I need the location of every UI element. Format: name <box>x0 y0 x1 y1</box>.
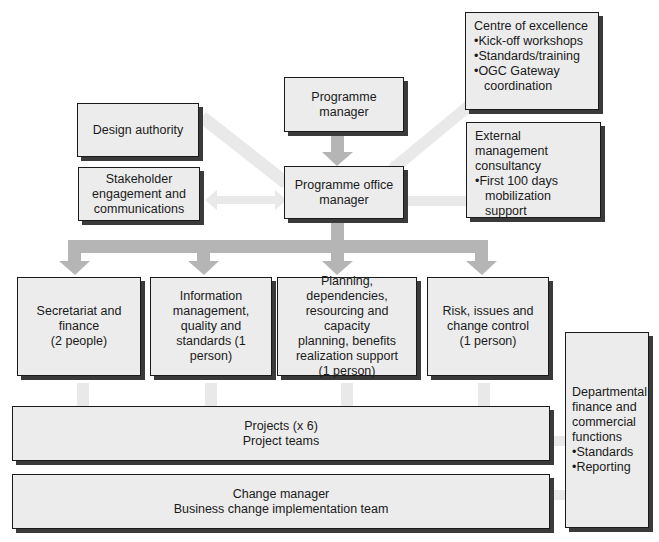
design-authority-label: Design authority <box>93 123 183 138</box>
departmental-bullets: Standards Reporting <box>572 445 647 475</box>
centre-of-excellence-title: Centre of excellence <box>474 19 590 34</box>
change-manager-box: Change manager Business change implement… <box>12 474 550 529</box>
information-management-box: Information management, quality and stan… <box>150 277 272 376</box>
centre-of-excellence-bullets: Kick-off workshops Standards/training OG… <box>474 34 590 94</box>
secretariat-finance-box: Secretariat and finance (2 people) <box>17 277 141 376</box>
bullet-item: Standards <box>572 445 647 460</box>
programme-office-manager-label: Programme office manager <box>295 178 393 208</box>
stakeholder-label: Stakeholder engagement and communication… <box>92 172 186 217</box>
projects-box: Projects (x 6) Project teams <box>12 406 550 461</box>
departmental-title: Departmental finance and commercial func… <box>572 385 647 445</box>
external-consultancy-box: External management consultancy First 10… <box>466 122 601 218</box>
bullet-item: OGC Gateway coordination <box>474 64 590 94</box>
external-consultancy-title: External management consultancy <box>475 129 592 174</box>
bullet-item: Standards/training <box>474 49 590 64</box>
bullet-item: Kick-off workshops <box>474 34 590 49</box>
centre-of-excellence-box: Centre of excellence Kick-off workshops … <box>465 12 599 110</box>
external-consultancy-bullets: First 100 days mobilization support <box>475 174 592 219</box>
planning-box: Planning, dependencies, resourcing and c… <box>277 277 417 376</box>
departmental-finance-box: Departmental finance and commercial func… <box>565 332 649 528</box>
design-authority-box: Design authority <box>77 103 199 157</box>
programme-office-manager-box: Programme office manager <box>284 166 404 219</box>
programme-manager-box: Programme manager <box>284 77 404 132</box>
risk-issues-box: Risk, issues and change control (1 perso… <box>427 277 549 376</box>
programme-manager-label: Programme manager <box>311 90 376 120</box>
bullet-item: First 100 days mobilization support <box>475 174 592 219</box>
bullet-item: Reporting <box>572 460 647 475</box>
stakeholder-engagement-box: Stakeholder engagement and communication… <box>78 167 200 221</box>
